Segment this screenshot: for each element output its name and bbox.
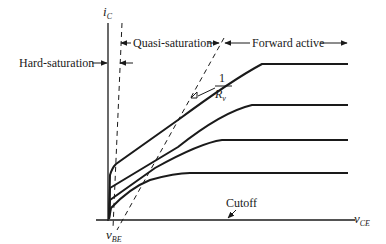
hard-saturation-label: Hard-saturation — [19, 56, 94, 70]
cutoff-label: Cutoff — [226, 196, 257, 210]
quasi-saturation-boundary — [117, 38, 224, 230]
slope-denominator: Rv — [214, 87, 226, 103]
cutoff-arrow — [228, 210, 236, 218]
bjt-characteristics-diagram: iC vCE vBE Hard-saturation Quasi-saturat… — [0, 0, 386, 244]
slope-numerator: 1 — [219, 71, 225, 85]
forward-active-label: Forward active — [252, 36, 324, 50]
y-axis-label: iC — [103, 4, 113, 21]
x-axis-label: vCE — [354, 211, 370, 228]
origin-label: vBE — [106, 227, 122, 244]
quasi-saturation-label: Quasi-saturation — [133, 36, 212, 50]
